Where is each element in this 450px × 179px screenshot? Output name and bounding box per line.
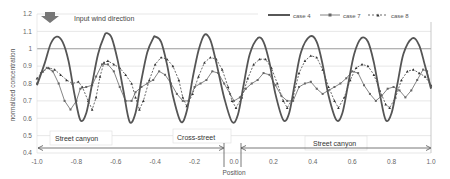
y-tick-label: 0.8 bbox=[23, 80, 32, 87]
x-tick-label: 0.2 bbox=[269, 158, 278, 165]
data-series bbox=[36, 33, 433, 123]
x-tick-label: -1.0 bbox=[31, 158, 43, 165]
x-tick-label: 0.8 bbox=[387, 158, 396, 165]
legend-case-7: case 7 bbox=[343, 13, 361, 19]
x-tick-label: -0.2 bbox=[189, 158, 201, 165]
x-axis-ticks: -1.0-0.8-0.6-0.4-0.20.00.20.40.60.81.0 bbox=[31, 158, 435, 165]
region-label-street-canyon-right: Street canyon bbox=[313, 140, 356, 148]
x-tick-label: -0.6 bbox=[110, 158, 122, 165]
x-tick-label: 0.6 bbox=[348, 158, 357, 165]
x-tick-label: 1.0 bbox=[426, 158, 435, 165]
x-tick-label: -0.4 bbox=[150, 158, 162, 165]
y-tick-label: 0.5 bbox=[23, 132, 32, 139]
x-axis-label: Position bbox=[222, 169, 246, 176]
y-tick-label: 0.9 bbox=[23, 62, 32, 69]
region-label-street-canyon-left: Street canyon bbox=[55, 135, 98, 143]
series-case-4 bbox=[37, 33, 431, 123]
legend-case-4: case 4 bbox=[293, 13, 311, 19]
legend-case-8: case 8 bbox=[391, 13, 409, 19]
x-tick-label: -0.8 bbox=[71, 158, 83, 165]
y-tick-label: 0.6 bbox=[23, 115, 32, 122]
region-label-cross-street: Cross-street bbox=[177, 134, 215, 141]
y-axis-ticks: 0.40.50.60.70.80.911.11.2 bbox=[23, 10, 32, 156]
y-tick-label: 1 bbox=[28, 45, 32, 52]
x-tick-label: 0.4 bbox=[308, 158, 317, 165]
y-tick-label: 0.4 bbox=[23, 149, 32, 156]
y-tick-label: 1.2 bbox=[23, 10, 32, 17]
series-case-8 bbox=[36, 54, 433, 110]
y-axis-label: normalized concentration bbox=[9, 48, 16, 121]
x-tick-label: 0.0 bbox=[229, 158, 238, 165]
legend: case 4 case 7 case 8 bbox=[258, 8, 438, 22]
wind-direction-label: Input wind direction bbox=[74, 15, 134, 23]
y-tick-label: 1.1 bbox=[23, 28, 32, 35]
concentration-chart: 0.40.50.60.70.80.911.11.2 -1.0-0.8-0.6-0… bbox=[0, 0, 450, 179]
y-tick-label: 0.7 bbox=[23, 97, 32, 104]
